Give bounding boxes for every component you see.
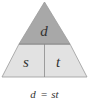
label-s: s xyxy=(23,54,29,70)
formula-caption: d = st xyxy=(30,88,59,100)
caption-lhs: d xyxy=(30,88,36,100)
label-d: d xyxy=(40,23,48,39)
caption-equals: = xyxy=(41,88,47,100)
formula-triangle-diagram: d s t d = st xyxy=(0,0,90,102)
caption-rhs: st xyxy=(51,88,59,100)
